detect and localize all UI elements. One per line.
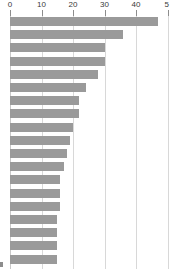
bar — [10, 162, 64, 171]
bars-container — [0, 16, 170, 269]
bar — [10, 83, 86, 92]
bar — [10, 43, 105, 52]
x-axis-tick-label: 40 — [132, 0, 141, 10]
x-axis-tick-label: 5 — [165, 0, 169, 10]
bar — [10, 175, 60, 184]
bar — [10, 255, 57, 264]
axis-origin-mark — [0, 262, 3, 267]
bar — [10, 241, 57, 250]
bar — [10, 109, 79, 118]
bar — [10, 189, 60, 198]
x-axis-tick-label: 20 — [69, 0, 78, 10]
bar — [10, 228, 57, 237]
bar — [10, 57, 105, 66]
x-axis-tick-label: 0 — [8, 0, 12, 10]
x-axis-tick-label: 10 — [37, 0, 46, 10]
bar — [10, 17, 158, 26]
bar-chart: 0102030405 — [0, 0, 170, 269]
bar — [10, 30, 123, 39]
bar — [10, 96, 79, 105]
bar — [10, 123, 73, 132]
bar — [10, 202, 60, 211]
bar — [10, 215, 57, 224]
bar — [10, 149, 67, 158]
plot-area — [0, 16, 170, 269]
bar — [10, 136, 70, 145]
x-axis-tick-label: 30 — [100, 0, 109, 10]
bar — [10, 70, 98, 79]
